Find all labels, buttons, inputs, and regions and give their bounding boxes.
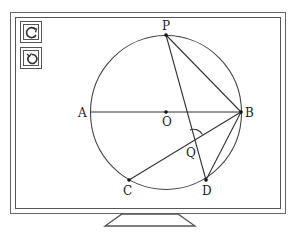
monitor-stand	[105, 214, 195, 226]
label-Q: Q	[186, 146, 196, 160]
label-C: C	[123, 184, 132, 198]
geometry-diagram: P A O B Q C D	[0, 0, 296, 236]
segment-PB	[166, 35, 241, 112]
point-D	[204, 178, 208, 182]
label-A: A	[77, 106, 87, 120]
point-P	[164, 33, 168, 37]
point-C	[127, 178, 131, 182]
point-O	[164, 110, 168, 114]
label-B: B	[245, 106, 254, 120]
label-P: P	[162, 19, 170, 33]
label-O: O	[162, 115, 172, 129]
label-D: D	[202, 184, 212, 198]
point-B	[239, 110, 243, 114]
segment-CB	[129, 112, 241, 180]
